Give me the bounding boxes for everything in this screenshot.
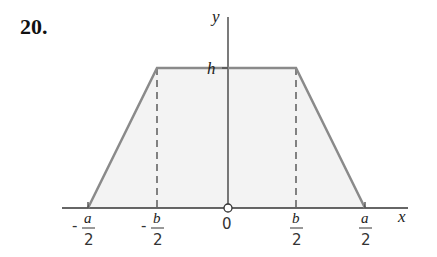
svg-text:2: 2 [84,231,94,249]
x-axis-label: x [397,207,406,226]
svg-text:2: 2 [153,231,163,249]
neg-a-half-label: - a 2 [72,210,95,249]
trapezoid-diagram: y x h 0 - a 2 - b 2 b 2 a 2 [0,0,437,257]
svg-text:2: 2 [292,231,302,249]
height-label: h [207,59,216,78]
origin-marker [224,204,232,212]
trapezoid-fill [88,68,365,208]
origin-label: 0 [222,215,232,233]
pos-a-half-label: a 2 [359,210,372,249]
svg-text:2: 2 [361,231,371,249]
svg-text:-: - [72,217,77,235]
svg-text:a: a [84,210,92,226]
pos-b-half-label: b 2 [290,210,303,249]
y-axis-label: y [210,7,220,26]
svg-text:a: a [361,210,369,226]
svg-text:-: - [141,217,146,235]
neg-b-half-label: - b 2 [141,210,164,249]
svg-text:b: b [153,210,161,226]
svg-text:b: b [292,210,300,226]
